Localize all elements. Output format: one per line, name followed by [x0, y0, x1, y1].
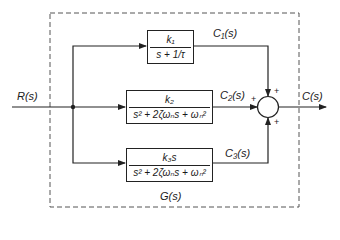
- branch-bottom: [73, 107, 125, 163]
- block-3-numerator: k₃s: [129, 152, 210, 166]
- input-label: R(s): [17, 90, 38, 102]
- c1-label: C₁(s): [213, 27, 237, 39]
- sign-bottom: +: [274, 117, 279, 127]
- block-2-denominator: s² + 2ζωₙs + ωₙ²: [133, 108, 206, 121]
- sign-top: +: [274, 86, 279, 96]
- transfer-block-1: k₁ s + 1/τ: [147, 30, 194, 64]
- sign-left: +: [251, 94, 256, 104]
- system-label: G(s): [160, 190, 181, 202]
- output-label: C(s): [302, 90, 323, 102]
- transfer-block-3: k₃s s² + 2ζωₙs + ωₙ²: [126, 148, 213, 182]
- block-2-numerator: k₂: [129, 94, 210, 108]
- summing-junction: [258, 97, 279, 118]
- block-3-denominator: s² + 2ζωₙs + ωₙ²: [133, 166, 206, 179]
- transfer-block-2: k₂ s² + 2ζωₙs + ωₙ²: [126, 90, 213, 124]
- c2-label: C₂(s): [220, 89, 245, 101]
- c3-label: C₃(s): [225, 147, 250, 159]
- block-1-numerator: k₁: [150, 34, 191, 48]
- block-1-denominator: s + 1/τ: [156, 48, 184, 61]
